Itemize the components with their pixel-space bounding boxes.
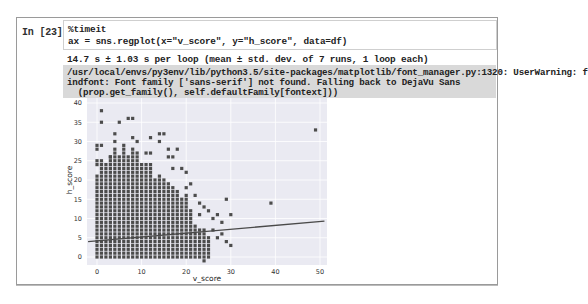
svg-text:0: 0 xyxy=(95,268,99,276)
y-tick-labels: 0510152025303540 xyxy=(74,99,82,261)
y-axis-label: h_score xyxy=(65,165,74,194)
svg-text:10: 10 xyxy=(137,268,145,276)
svg-text:25: 25 xyxy=(74,157,82,165)
svg-text:15: 15 xyxy=(74,196,82,204)
svg-text:40: 40 xyxy=(271,268,279,276)
svg-text:30: 30 xyxy=(74,138,82,146)
svg-text:40: 40 xyxy=(74,99,82,107)
svg-text:50: 50 xyxy=(316,268,324,276)
svg-text:35: 35 xyxy=(74,119,82,127)
svg-text:10: 10 xyxy=(74,215,82,223)
svg-text:30: 30 xyxy=(227,268,235,276)
svg-text:20: 20 xyxy=(74,176,82,184)
svg-text:0: 0 xyxy=(78,253,82,261)
x-axis-label: v_score xyxy=(193,274,222,283)
svg-text:5: 5 xyxy=(78,234,82,242)
svg-text:20: 20 xyxy=(182,268,190,276)
